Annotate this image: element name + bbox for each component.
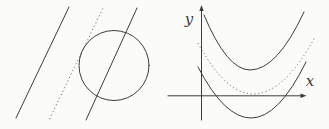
x-axis-arrowhead <box>301 94 307 98</box>
figure: y x <box>0 0 329 129</box>
y-axis-arrowhead <box>199 5 203 11</box>
line-secant <box>86 8 137 120</box>
line-disjoint <box>16 7 69 118</box>
y-axis-label: y <box>184 10 194 28</box>
parabola-no-intersection <box>204 12 304 70</box>
circle <box>79 31 149 101</box>
line-tangent-dotted <box>50 6 105 119</box>
figure-canvas: y x <box>0 0 329 129</box>
parabola-tangent-dotted <box>198 37 315 94</box>
left-panel-circle-and-lines <box>16 6 149 120</box>
x-axis-label: x <box>306 72 315 90</box>
